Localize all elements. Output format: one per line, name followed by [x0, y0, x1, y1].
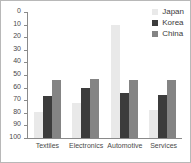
bar-korea-electronics[interactable] [81, 88, 90, 138]
legend-item-label: Japan [162, 7, 184, 16]
bar-korea-services[interactable] [158, 95, 167, 138]
x-axis-labels: TextilesElectronicsAutomotiveServices [28, 141, 183, 150]
x-axis-label-electronics: Electronics [67, 141, 106, 150]
y-axis-tick-label: 0 [17, 7, 21, 15]
legend-item-china[interactable]: China [152, 29, 184, 38]
bar-korea-textiles[interactable] [43, 96, 52, 138]
bar-chart-figure: 1009080706050403020100 TextilesElectroni… [0, 0, 191, 163]
y-axis-tick-label: 40 [13, 57, 21, 65]
y-axis-tick-label: 100 [9, 133, 21, 141]
legend-item-label: China [162, 29, 183, 38]
bar-japan-electronics[interactable] [72, 103, 81, 138]
x-axis-label-services: Services [144, 141, 183, 150]
bar-china-electronics[interactable] [90, 79, 99, 138]
y-axis-tick-label: 90 [13, 120, 21, 128]
bar-group [105, 12, 144, 138]
legend-item-label: Korea [162, 18, 183, 27]
legend-swatch-icon [152, 20, 158, 26]
y-axis-tick-label: 20 [13, 32, 21, 40]
x-axis-label-textiles: Textiles [28, 141, 67, 150]
y-axis-tick-label: 30 [13, 45, 21, 53]
bar-china-automotive[interactable] [129, 80, 138, 138]
y-axis-tick-label: 50 [13, 70, 21, 78]
y-axis-tick-label: 80 [13, 108, 21, 116]
x-axis-label-automotive: Automotive [106, 141, 145, 150]
bar-japan-automotive[interactable] [111, 25, 120, 138]
bar-korea-automotive[interactable] [120, 93, 129, 138]
bar-china-services[interactable] [167, 80, 176, 138]
y-axis-tick-label: 10 [13, 20, 21, 28]
legend-swatch-icon [152, 9, 158, 15]
bar-japan-services[interactable] [149, 110, 158, 138]
bar-group [67, 12, 106, 138]
legend-item-korea[interactable]: Korea [152, 18, 184, 27]
y-axis-tick-label: 60 [13, 83, 21, 91]
legend-swatch-icon [152, 31, 158, 37]
bar-china-textiles[interactable] [52, 80, 61, 138]
chart-legend: JapanKoreaChina [152, 7, 184, 38]
legend-item-japan[interactable]: Japan [152, 7, 184, 16]
y-axis-tick-label: 70 [13, 95, 21, 103]
bar-japan-textiles[interactable] [34, 112, 43, 138]
bar-group [28, 12, 67, 138]
